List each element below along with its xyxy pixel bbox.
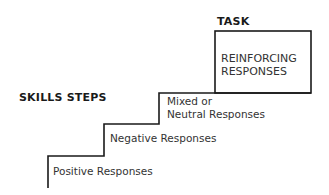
step-mixed-line1: Mixed or (167, 95, 265, 108)
task-box-label: REINFORCING RESPONSES (221, 52, 297, 78)
task-heading: TASK (217, 15, 249, 28)
skills-steps-heading: SKILLS STEPS (19, 91, 107, 104)
step-mixed-line2: Neutral Responses (167, 108, 265, 121)
step-mixed-neutral-responses: Mixed or Neutral Responses (167, 95, 265, 121)
step-positive-responses: Positive Responses (53, 165, 153, 178)
step-negative-responses: Negative Responses (110, 132, 216, 145)
task-box-line1: REINFORCING (221, 52, 297, 65)
task-box-line2: RESPONSES (221, 65, 297, 78)
